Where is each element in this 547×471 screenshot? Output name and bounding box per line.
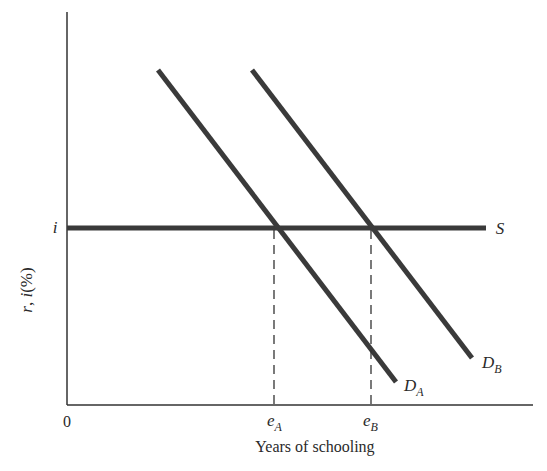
y-axis-label: r, i(%) xyxy=(17,267,36,312)
rate-i-label: i xyxy=(53,218,58,237)
demand-b-label: DB xyxy=(481,353,502,376)
demand-a-label: DA xyxy=(403,376,424,399)
supply-label: S xyxy=(496,219,505,238)
x-axis-label: Years of schooling xyxy=(255,438,374,456)
equilibrium-a-label: eA xyxy=(267,411,283,434)
equilibrium-b-label: eB xyxy=(363,411,379,434)
demand-curve-b xyxy=(252,70,472,358)
origin-label: 0 xyxy=(63,413,71,430)
schooling-investment-diagram: r, i(%) i S DA DB 0 eA eB Years of schoo… xyxy=(0,0,547,471)
